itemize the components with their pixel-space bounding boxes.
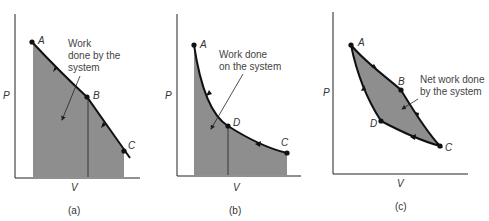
x-axis-label: V	[397, 178, 405, 189]
y-axis-label: P	[3, 90, 10, 101]
annotation-line-2: done by the	[68, 50, 121, 61]
panel-a: A B C Work done by the system P V (a)	[3, 14, 140, 216]
point-c	[284, 150, 289, 155]
point-a	[191, 42, 196, 47]
annotation-line-3: system	[68, 62, 100, 73]
y-axis-label: P	[323, 87, 330, 98]
panel-b: A D C Work done on the system P V (b)	[165, 14, 301, 216]
annotation-line-2: on the system	[219, 61, 281, 72]
point-c	[121, 148, 126, 153]
point-a	[29, 39, 34, 44]
label-point-a: A	[37, 35, 45, 46]
point-a	[348, 42, 353, 47]
point-b	[84, 94, 89, 99]
annotation-line-1: Work done	[219, 49, 268, 60]
annotation-line-2: by the system	[420, 86, 482, 97]
label-point-c: C	[128, 140, 136, 151]
label-point-b: B	[398, 76, 405, 87]
label-point-d: D	[370, 118, 377, 129]
y-axis-label: P	[165, 90, 172, 101]
label-point-a: A	[199, 39, 207, 50]
annotation-line-1: Net work done	[420, 74, 485, 85]
caption: (c)	[395, 201, 407, 212]
label-point-c: C	[281, 137, 289, 148]
x-axis-label: V	[233, 182, 241, 193]
direction-arrow-da	[206, 90, 212, 96]
panel-c: A B C D Net work done by the system P V …	[323, 12, 485, 212]
label-point-b: B	[93, 90, 100, 101]
point-d	[225, 123, 230, 128]
annotation-line-1: Work	[68, 38, 92, 49]
point-c	[437, 143, 442, 148]
point-b	[398, 87, 403, 92]
label-point-a: A	[357, 37, 365, 48]
x-axis-label: V	[71, 182, 79, 193]
label-point-c: C	[445, 142, 453, 153]
label-point-d: D	[233, 117, 240, 128]
point-d	[378, 118, 383, 123]
pv-diagrams: A B C Work done by the system P V (a) A …	[0, 0, 489, 221]
caption: (b)	[229, 205, 241, 216]
caption: (a)	[68, 205, 80, 216]
